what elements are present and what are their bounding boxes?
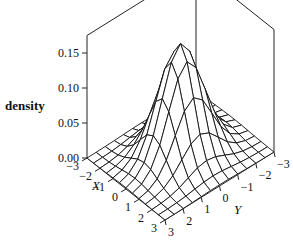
tick-label: −1 xyxy=(241,180,254,194)
tick-label: −2 xyxy=(79,169,92,183)
tick-label: 2 xyxy=(138,211,144,225)
tick-label: 0 xyxy=(112,190,118,204)
z-axis-label: density xyxy=(5,98,45,113)
y-axis-label: Y xyxy=(234,202,243,217)
tick-label: −2 xyxy=(259,168,272,182)
density-surface-plot: 0.000.050.100.15−3−2−10123−3−2−10123 den… xyxy=(0,0,293,246)
tick-label: 3 xyxy=(168,225,174,239)
tick-label: 0.10 xyxy=(58,81,79,95)
tick-label: 0.05 xyxy=(58,116,79,130)
tick-label: −3 xyxy=(277,157,290,171)
tick-label: −3 xyxy=(66,159,79,173)
tick-label: 1 xyxy=(125,200,131,214)
tick-label: 0.15 xyxy=(58,46,79,60)
tick-label: 2 xyxy=(186,214,192,228)
tick-label: 3 xyxy=(151,221,157,235)
x-axis-label: X xyxy=(91,178,101,193)
tick-label: 1 xyxy=(204,202,210,216)
tick-label: 0 xyxy=(223,191,229,205)
